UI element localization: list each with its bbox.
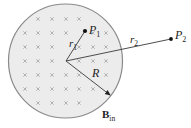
- R-label: R: [91, 66, 100, 80]
- B-in-label: Bin: [102, 108, 115, 123]
- point-p2: [169, 37, 173, 41]
- r2-label: r2: [130, 33, 138, 48]
- point-p1: [83, 29, 87, 33]
- p2-label: P2: [174, 28, 186, 44]
- magnetic-field-diagram: P1 P2 r1 r2 R Bin: [0, 0, 191, 128]
- field-region-circle: [9, 4, 123, 118]
